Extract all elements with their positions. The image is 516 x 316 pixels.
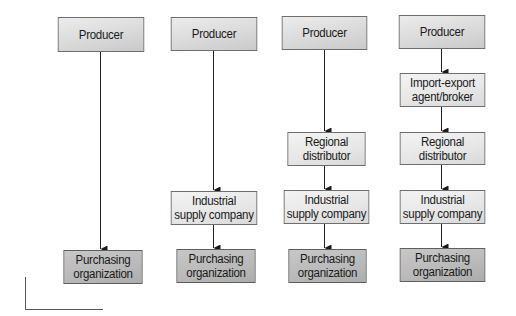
channel-1-purchasing-label: Purchasing organization — [73, 253, 132, 281]
channel-4-producer-label: Producer — [420, 25, 464, 39]
channel-4-regional-distributor-label: Regional distributor — [419, 135, 466, 163]
channel-3-industrial-supply-label: Industrial supply company — [287, 193, 366, 221]
channel-3-regional-distributor-box: Regional distributor — [287, 132, 365, 166]
channel-4-import-export-label: Import-export agent/broker — [410, 76, 475, 104]
channel-4-regional-distributor-box: Regional distributor — [400, 132, 486, 165]
channel-1-producer-label: Producer — [79, 28, 123, 42]
channel-4-purchasing-box: Purchasing organization — [400, 248, 486, 282]
channel-3-industrial-supply-box: Industrial supply company — [284, 190, 370, 224]
channel-2-purchasing-label: Purchasing organization — [186, 252, 245, 280]
channel-2-industrial-supply-box: Industrial supply company — [171, 191, 257, 225]
channel-4-producer-box: Producer — [399, 15, 485, 49]
channel-2-purchasing-box: Purchasing organization — [176, 249, 255, 283]
channel-4-industrial-supply-box: Industrial supply company — [400, 190, 486, 224]
channel-3-purchasing-label: Purchasing organization — [298, 252, 357, 280]
channel-4-industrial-supply-label: Industrial supply company — [403, 193, 482, 221]
distribution-channel-diagram: Producer Purchasing organization Produce… — [0, 0, 516, 316]
channel-3-regional-distributor-label: Regional distributor — [303, 135, 350, 163]
channel-3-purchasing-box: Purchasing organization — [288, 249, 366, 283]
channel-3-producer-box: Producer — [282, 16, 368, 50]
channel-1-producer-box: Producer — [58, 17, 144, 52]
channel-4-import-export-box: Import-export agent/broker — [400, 73, 486, 107]
channel-3-producer-label: Producer — [302, 26, 346, 40]
arrows — [101, 49, 442, 249]
channel-2-producer-box: Producer — [171, 17, 257, 51]
channel-2-industrial-supply-label: Industrial supply company — [174, 194, 253, 222]
channel-2-producer-label: Producer — [192, 27, 236, 41]
channel-1-purchasing-box: Purchasing organization — [63, 250, 142, 284]
channel-4-purchasing-label: Purchasing organization — [413, 251, 472, 279]
